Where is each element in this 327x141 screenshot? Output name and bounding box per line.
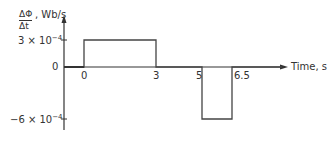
x-tick-label-3: 3 [153, 71, 159, 81]
y-tick-label-pos: 3 × 10−4 [18, 35, 62, 46]
y-tick-label-neg: −6 × 10−4 [10, 114, 63, 125]
y-label-unit: , Wb/s [35, 9, 66, 20]
y-axis-label: ΔΦ Δt [19, 10, 32, 31]
x-tick-label-0: 0 [81, 71, 87, 81]
x-tick-label-6-5: 6.5 [234, 71, 250, 81]
y-label-numerator: ΔΦ [19, 10, 32, 21]
y-tick-label-zero: 0 [52, 62, 58, 72]
x-tick-label-5: 5 [196, 71, 202, 81]
x-axis-label: Time, s [291, 62, 327, 72]
y-label-denominator: Δt [19, 21, 32, 31]
